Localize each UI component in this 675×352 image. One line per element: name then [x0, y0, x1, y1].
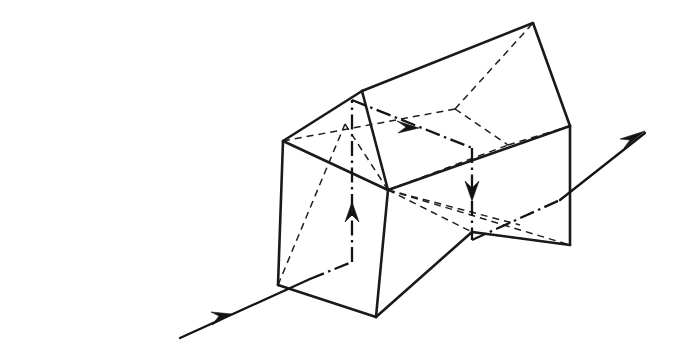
hidden-edge-left-face-diagonal	[278, 124, 345, 285]
hidden-edge-back-slope	[455, 109, 508, 145]
prism-ray-diagram	[0, 0, 675, 352]
hidden-edges-group	[278, 23, 570, 285]
incoming-ray-arrow	[211, 312, 232, 325]
ray-entry-internal	[310, 262, 352, 279]
ray-entry-external	[180, 279, 310, 338]
edge-left-vertical	[278, 141, 283, 285]
edge-roof-ridge	[362, 23, 533, 91]
edge-notch-left	[376, 232, 472, 317]
edge-notch-right	[472, 232, 570, 245]
edge-apex-to-front	[362, 91, 388, 190]
visible-edges-group	[278, 23, 570, 317]
ray-exit-external	[560, 133, 645, 200]
edge-front-vertical	[376, 190, 388, 317]
edge-right-roof-slope	[533, 23, 570, 126]
outgoing-ray-arrow	[620, 131, 645, 148]
ray-path-group	[180, 100, 645, 338]
hidden-edge-bottom-back	[388, 190, 520, 225]
internal-up-arrow	[345, 202, 359, 222]
edge-top-front-right	[388, 126, 570, 190]
figure-container	[0, 0, 675, 352]
hidden-edge-back-ridge	[455, 23, 533, 109]
edge-left-bottom	[278, 285, 376, 317]
